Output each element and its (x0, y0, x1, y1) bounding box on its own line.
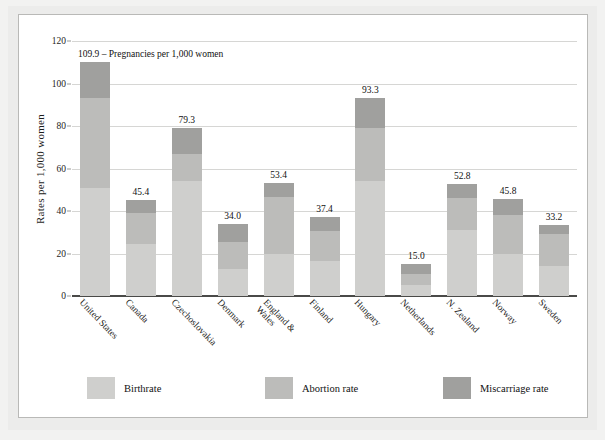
y-axis-tick (67, 296, 71, 297)
x-axis-label: Hungary (352, 298, 382, 329)
bar-segment-birthrate[interactable] (493, 254, 523, 297)
chart-area: Rates per 1,000 women 020406080100120109… (19, 15, 589, 419)
legend-item-miscarriage-rate[interactable]: Miscarriage rate (443, 377, 549, 399)
x-axis-labels: United StatesCanadaCzechoslovakiaDenmark… (72, 298, 577, 368)
bar-segment-abortion-rate[interactable] (493, 215, 523, 253)
bar-segment-miscarriage-rate[interactable] (401, 264, 431, 274)
bar-segment-abortion-rate[interactable] (355, 128, 385, 181)
legend-swatch (87, 377, 115, 399)
bar-total-label: 15.0 (408, 251, 425, 261)
y-axis-tick (67, 211, 71, 212)
bar-segment-abortion-rate[interactable] (264, 197, 294, 253)
bar-segment-miscarriage-rate[interactable] (355, 98, 385, 128)
legend-item-abortion-rate[interactable]: Abortion rate (265, 377, 358, 399)
chart-plate: Rates per 1,000 women 020406080100120109… (18, 14, 588, 418)
bar-segment-birthrate[interactable] (447, 230, 477, 296)
x-axis-label: Canada (123, 298, 150, 325)
bar-total-label: 109.9 – Pregnancies per 1,000 women (78, 49, 223, 59)
bar-segment-birthrate[interactable] (264, 254, 294, 297)
bar-stack[interactable]: 15.0 (401, 264, 431, 296)
y-axis-tick (67, 83, 71, 84)
y-axis-tick (67, 126, 71, 127)
gridline (72, 126, 577, 127)
y-axis-tick (67, 253, 71, 254)
bar-segment-abortion-rate[interactable] (401, 274, 431, 286)
bar-stack[interactable]: 79.3 (172, 128, 202, 297)
x-axis-label: Netherlands (398, 298, 437, 338)
bar-total-label: 33.2 (546, 212, 563, 222)
bar-segment-miscarriage-rate[interactable] (172, 128, 202, 154)
y-axis-tick-label: 20 (57, 249, 67, 259)
bar-stack[interactable]: 33.2 (539, 225, 569, 296)
x-axis-label: Finland (306, 298, 333, 326)
x-axis-label: Norway (490, 298, 518, 327)
x-axis-label: Sweden (536, 298, 564, 327)
bar-segment-abortion-rate[interactable] (447, 198, 477, 230)
bar-segment-miscarriage-rate[interactable] (493, 199, 523, 216)
bar-stack[interactable]: 93.3 (355, 98, 385, 296)
bar-segment-abortion-rate[interactable] (218, 242, 248, 270)
gridline (72, 169, 577, 170)
bar-stack[interactable]: 52.8 (447, 184, 477, 296)
bar-segment-miscarriage-rate[interactable] (447, 184, 477, 198)
y-axis-tick-label: 80 (57, 121, 67, 131)
bar-total-label: 79.3 (178, 115, 195, 125)
bar-stack[interactable]: 34.0 (218, 224, 248, 296)
legend-label: Birthrate (124, 383, 161, 394)
x-axis-label: N. Zealand (444, 298, 480, 335)
bar-segment-birthrate[interactable] (172, 181, 202, 296)
bar-stack[interactable]: 53.4 (264, 183, 294, 296)
legend-swatch (443, 377, 471, 399)
bar-segment-miscarriage-rate[interactable] (264, 183, 294, 198)
bar-segment-birthrate[interactable] (401, 285, 431, 296)
bar-segment-abortion-rate[interactable] (80, 98, 110, 187)
y-axis-title-text: Rates per 1,000 women (34, 113, 46, 223)
legend-label: Miscarriage rate (480, 383, 549, 394)
bar-stack[interactable]: 37.4 (310, 217, 340, 296)
plot-area: 020406080100120109.9 – Pregnancies per 1… (72, 41, 577, 296)
bar-segment-birthrate[interactable] (218, 269, 248, 296)
x-axis-label: United States (77, 298, 120, 342)
bar-segment-birthrate[interactable] (539, 266, 569, 296)
y-axis-title: Rates per 1,000 women (31, 41, 49, 296)
bar-segment-abortion-rate[interactable] (172, 154, 202, 182)
chart-page: Rates per 1,000 women 020406080100120109… (0, 0, 605, 440)
x-axis-label: Czechoslovakia (169, 298, 218, 348)
bar-segment-birthrate[interactable] (80, 188, 110, 296)
bar-segment-miscarriage-rate[interactable] (539, 225, 569, 234)
bar-stack[interactable]: 45.4 (126, 200, 156, 296)
bar-segment-miscarriage-rate[interactable] (80, 62, 110, 98)
bar-segment-birthrate[interactable] (310, 261, 340, 296)
y-axis-tick-label: 0 (61, 291, 66, 301)
gridline (72, 41, 577, 42)
legend-label: Abortion rate (302, 383, 358, 394)
bar-stack[interactable]: 45.8 (493, 199, 523, 296)
bar-total-label: 53.4 (270, 170, 287, 180)
y-axis-tick-label: 100 (52, 79, 66, 89)
gridline (72, 84, 577, 85)
bar-segment-abortion-rate[interactable] (539, 234, 569, 266)
x-axis-label: Denmark (215, 298, 247, 330)
bar-total-label: 52.8 (454, 171, 471, 181)
y-axis-tick (67, 41, 71, 42)
bar-segment-miscarriage-rate[interactable] (310, 217, 340, 232)
legend-swatch (265, 377, 293, 399)
y-axis-tick (67, 168, 71, 169)
bar-total-label: 93.3 (362, 85, 379, 95)
y-axis-tick-label: 40 (57, 206, 67, 216)
bar-total-label: 34.0 (224, 211, 241, 221)
x-axis-label: England &Wales (253, 298, 296, 342)
bar-stack[interactable]: 109.9 – Pregnancies per 1,000 women (80, 62, 110, 296)
bar-segment-birthrate[interactable] (355, 181, 385, 296)
y-axis-tick-label: 120 (52, 36, 66, 46)
bar-total-label: 45.4 (133, 187, 150, 197)
bar-segment-birthrate[interactable] (126, 244, 156, 296)
bar-total-label: 45.8 (500, 186, 517, 196)
bar-total-label: 37.4 (316, 204, 333, 214)
legend-item-birthrate[interactable]: Birthrate (87, 377, 161, 399)
bar-segment-abortion-rate[interactable] (310, 231, 340, 261)
bar-segment-miscarriage-rate[interactable] (126, 200, 156, 214)
y-axis-tick-label: 60 (57, 164, 67, 174)
bar-segment-abortion-rate[interactable] (126, 213, 156, 244)
bar-segment-miscarriage-rate[interactable] (218, 224, 248, 242)
